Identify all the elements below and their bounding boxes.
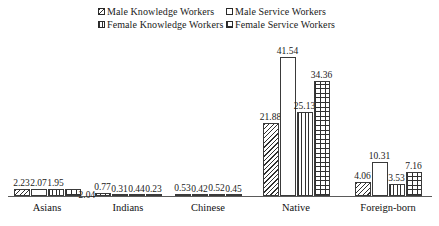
- bar-native-s1: 41.54: [280, 36, 296, 196]
- bar-rect: [389, 184, 405, 196]
- category-label-foreign-born: Foreign-born: [360, 202, 415, 214]
- legend-item-male-knowledge-workers: Male Knowledge Workers: [98, 6, 214, 17]
- bar-foreign-born-s0: 4.06: [355, 36, 371, 196]
- legend-row-top: Male Knowledge Workers Male Service Work…: [0, 6, 439, 20]
- bar-value-label: 0.31: [111, 184, 128, 194]
- bar-value-label: 2.23: [13, 178, 30, 188]
- legend-item-male-service-workers: Male Service Workers: [226, 6, 326, 17]
- bar-value-label: 0.44: [128, 184, 145, 194]
- bar-value-label: 0.53: [174, 183, 191, 193]
- bar-value-label: 34.36: [311, 70, 332, 80]
- bar-value-label: 10.31: [369, 151, 390, 161]
- bar-rect: [372, 162, 388, 196]
- bar-rect: [297, 112, 313, 196]
- bar-value-label: 0.52: [208, 183, 225, 193]
- bar-value-label: 2.04: [79, 190, 96, 200]
- bar-value-label: 0.77: [94, 182, 111, 192]
- bar-chinese-s2: 0.52: [209, 36, 225, 196]
- legend-item-female-knowledge-workers: Female Knowledge Workers: [98, 19, 223, 30]
- bar-group-asians: 2.232.071.952.04Asians: [14, 36, 81, 196]
- bar-native-s2: 25.13: [297, 36, 313, 196]
- legend-label-female-knowledge-workers: Female Knowledge Workers: [107, 19, 223, 30]
- bar-rect: [31, 189, 47, 196]
- bar-foreign-born-s3: 7.16: [406, 36, 422, 196]
- bar-rect: [95, 193, 111, 196]
- bar-value-label: 41.54: [277, 46, 298, 56]
- bar-value-label: 0.42: [191, 184, 208, 194]
- bar-foreign-born-s1: 10.31: [372, 36, 388, 196]
- bar-chinese-s3: 0.45: [226, 36, 242, 196]
- bar-asians-s3: 2.04: [65, 36, 81, 196]
- bar-value-label: 4.06: [354, 171, 371, 181]
- bar-rect: [192, 194, 208, 196]
- legend-swatch-vertical-lines-icon: [98, 21, 105, 28]
- chart-legend: Male Knowledge Workers Male Service Work…: [0, 6, 439, 36]
- bar-group-chinese: 0.530.420.520.45Chinese: [175, 36, 242, 196]
- bar-indians-s2: 0.44: [129, 36, 145, 196]
- legend-item-female-service-workers: Female Service Workers: [226, 19, 335, 30]
- bar-indians-s0: 0.77: [95, 36, 111, 196]
- legend-row-bottom: Female Knowledge Workers Female Service …: [0, 19, 439, 33]
- legend-swatch-diagonal-hatch-icon: [98, 8, 105, 15]
- bar-chinese-s0: 0.53: [175, 36, 191, 196]
- bar-rect: [314, 81, 330, 196]
- bar-rect: [14, 189, 30, 196]
- bars: 0.770.310.440.23: [95, 36, 163, 196]
- bar-indians-s1: 0.31: [112, 36, 128, 196]
- bar-value-label: 7.16: [405, 161, 422, 171]
- bar-value-label: 1.95: [47, 178, 64, 188]
- legend-swatch-light-dots-icon: [226, 8, 233, 15]
- bar-rect: [226, 194, 242, 196]
- bar-value-label: 21.88: [260, 112, 281, 122]
- bar-group-native: 21.8841.5425.1334.36Native: [263, 36, 330, 196]
- bar-rect: [48, 189, 64, 196]
- bar-rect: [406, 172, 422, 196]
- bar-value-label: 25.13: [294, 101, 315, 111]
- bar-rect: [280, 57, 296, 196]
- bar-rect: [112, 194, 128, 196]
- bars: 21.8841.5425.1334.36: [263, 36, 331, 196]
- bar-group-indians: 0.770.310.440.23Indians: [95, 36, 162, 196]
- bar-foreign-born-s2: 3.53: [389, 36, 405, 196]
- bars: 2.232.071.952.04: [14, 36, 82, 196]
- bar-rect: [146, 194, 162, 196]
- bar-chinese-s1: 0.42: [192, 36, 208, 196]
- bar-value-label: 2.07: [30, 178, 47, 188]
- bar-rect: [355, 182, 371, 196]
- bar-asians-s1: 2.07: [31, 36, 47, 196]
- bar-value-label: 0.45: [225, 184, 242, 194]
- category-label-chinese: Chinese: [191, 202, 225, 214]
- bar-rect: [209, 194, 225, 196]
- bar-chart: Male Knowledge Workers Male Service Work…: [0, 0, 439, 226]
- bar-asians-s2: 1.95: [48, 36, 64, 196]
- legend-label-male-knowledge-workers: Male Knowledge Workers: [107, 6, 214, 17]
- bars: 0.530.420.520.45: [175, 36, 243, 196]
- bar-value-label: 0.23: [145, 184, 162, 194]
- bar-native-s0: 21.88: [263, 36, 279, 196]
- category-label-asians: Asians: [33, 202, 62, 214]
- bar-rect: [175, 194, 191, 196]
- bar-native-s3: 34.36: [314, 36, 330, 196]
- x-axis-line: [8, 196, 432, 197]
- bars: 4.0610.313.537.16: [355, 36, 423, 196]
- bar-group-foreign-born: 4.0610.313.537.16Foreign-born: [355, 36, 422, 196]
- bar-value-label: 3.53: [388, 173, 405, 183]
- bar-rect: [129, 194, 145, 196]
- bar-indians-s3: 0.23: [146, 36, 162, 196]
- category-label-native: Native: [282, 202, 310, 214]
- legend-label-male-service-workers: Male Service Workers: [235, 6, 326, 17]
- legend-swatch-brick-grid-icon: [226, 21, 233, 28]
- bar-rect: [263, 123, 279, 196]
- category-label-indians: Indians: [113, 202, 144, 214]
- legend-label-female-service-workers: Female Service Workers: [235, 19, 335, 30]
- bar-asians-s0: 2.23: [14, 36, 30, 196]
- plot-area: 2.232.071.952.04Asians0.770.310.440.23In…: [0, 36, 439, 226]
